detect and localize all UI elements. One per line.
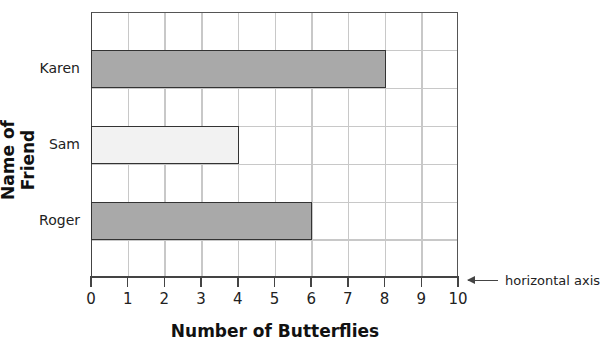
x-tick bbox=[421, 276, 423, 287]
x-tick-label: 2 bbox=[152, 290, 176, 308]
x-tick-label: 1 bbox=[116, 290, 140, 308]
x-tick-label: 0 bbox=[79, 290, 103, 308]
x-tick-label: 4 bbox=[226, 290, 250, 308]
x-tick bbox=[274, 276, 276, 287]
x-tick bbox=[127, 276, 129, 287]
x-tick bbox=[164, 276, 166, 287]
bar-roger bbox=[91, 202, 312, 240]
x-tick-label: 3 bbox=[189, 290, 213, 308]
x-axis-label: Number of Butterflies bbox=[120, 321, 430, 341]
bar-karen bbox=[91, 50, 386, 88]
x-tick bbox=[347, 276, 349, 287]
x-tick-label: 6 bbox=[299, 290, 323, 308]
bar-sam bbox=[91, 126, 239, 164]
x-tick bbox=[310, 276, 312, 287]
x-tick-label: 9 bbox=[409, 290, 433, 308]
horizontal-gridline bbox=[92, 88, 457, 90]
x-tick-label: 5 bbox=[263, 290, 287, 308]
horizontal-gridline bbox=[92, 164, 457, 166]
x-tick bbox=[237, 276, 239, 287]
x-tick bbox=[457, 276, 459, 287]
category-label: Roger bbox=[39, 212, 80, 228]
chart-title-cropped bbox=[150, 0, 350, 4]
horizontal-gridline bbox=[92, 239, 457, 241]
x-tick bbox=[200, 276, 202, 287]
horizontal-axis-annotation: horizontal axis bbox=[468, 273, 600, 288]
vertical-gridline bbox=[421, 13, 423, 277]
x-tick-label: 10 bbox=[446, 290, 470, 308]
y-axis-label: Name of Friend bbox=[0, 90, 38, 230]
x-tick bbox=[384, 276, 386, 287]
category-label: Sam bbox=[49, 136, 80, 152]
x-tick bbox=[90, 276, 92, 287]
category-label: Karen bbox=[40, 60, 80, 76]
annotation-text: horizontal axis bbox=[505, 273, 600, 288]
x-tick-label: 7 bbox=[336, 290, 360, 308]
plot-area bbox=[91, 12, 458, 277]
left-arrow-icon bbox=[468, 280, 498, 282]
x-tick-label: 8 bbox=[373, 290, 397, 308]
